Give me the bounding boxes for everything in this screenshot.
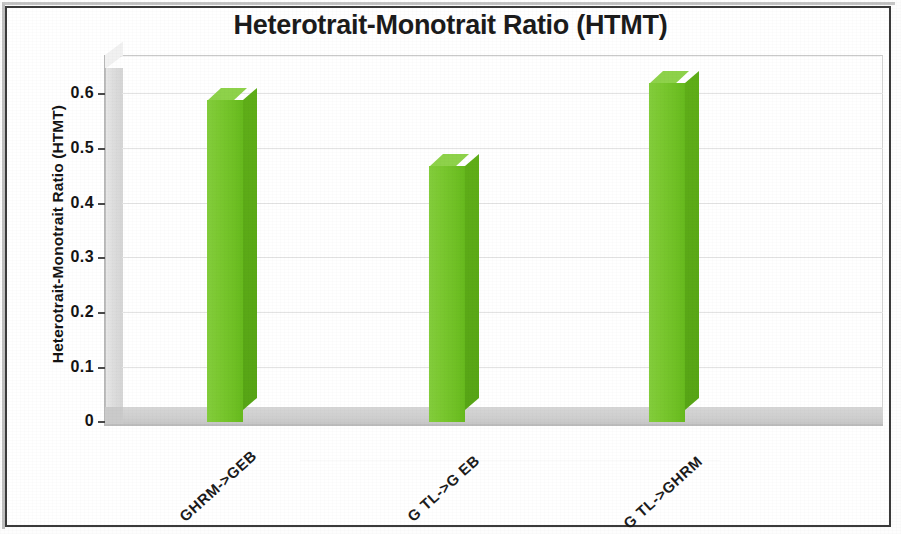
x-category-label-ghrm-geb: GHRM->GEB bbox=[176, 447, 260, 525]
y-tick-0-6 bbox=[98, 93, 105, 95]
plot-side-wall bbox=[105, 68, 123, 407]
scan-artifact-line bbox=[300, 460, 720, 461]
bar-side-face bbox=[243, 88, 257, 410]
chart-title: Heterotrait-Monotrait Ratio (HTMT) bbox=[0, 10, 901, 41]
bar-side-face bbox=[685, 71, 699, 410]
bar-front-face bbox=[429, 166, 465, 422]
scan-artifact-line bbox=[10, 3, 890, 4]
bar-front-face bbox=[649, 83, 685, 422]
bar-front-face bbox=[207, 100, 243, 422]
scan-artifact-line bbox=[60, 527, 860, 528]
x-category-label-gtl-ghrm: G TL->GHRM bbox=[620, 452, 706, 531]
x-category-label-gtl-geb: G TL->G EB bbox=[404, 451, 483, 524]
y-tick-0-3 bbox=[98, 257, 105, 259]
chart-page: Heterotrait-Monotrait Ratio (HTMT) 0.6 0… bbox=[0, 0, 901, 534]
y-tick-label-0: 0 bbox=[48, 412, 94, 430]
y-tick-0-5 bbox=[98, 148, 105, 150]
y-tick-0-2 bbox=[98, 312, 105, 314]
plot-floor-edge bbox=[105, 424, 883, 426]
y-axis-title: Heterotrait-Monotrait Ratio (HTMT) bbox=[49, 69, 67, 399]
bar-side-face bbox=[465, 154, 479, 410]
y-tick-0-4 bbox=[98, 203, 105, 205]
y-tick-0 bbox=[98, 421, 105, 423]
y-tick-0-1 bbox=[98, 367, 105, 369]
plot-area: 0.6 0.5 0.4 0.3 0.2 0.1 0 Heterotrait-Mo… bbox=[0, 0, 901, 534]
y-axis-line bbox=[104, 55, 105, 426]
scan-artifact-line bbox=[120, 56, 880, 57]
